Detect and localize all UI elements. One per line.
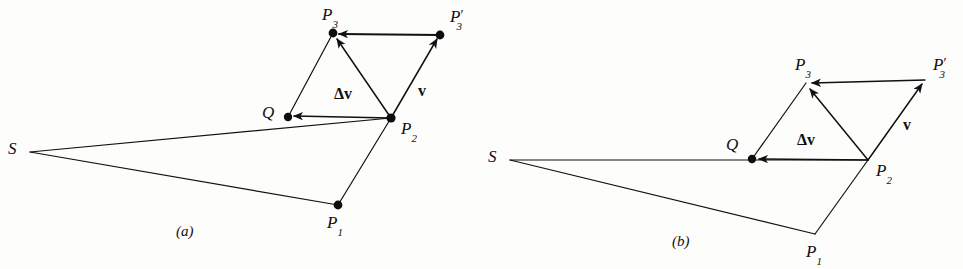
label-b-Q: Q (726, 136, 738, 153)
label-b-S: S (488, 148, 497, 165)
label-b-P3-subscript: 3 (805, 68, 811, 80)
caption-b: (b) (672, 234, 690, 249)
panel-b-lines (0, 0, 963, 269)
label-b-P2-subscript: 2 (886, 174, 892, 186)
edge-b-P2-to-Q (759, 159, 868, 160)
label-b-P3-prime: P′3 (933, 56, 945, 76)
edge-b-P3prime-to-P3 (812, 80, 925, 83)
label-b-P1-subscript: 1 (816, 255, 822, 267)
label-b-delta-v: Δv (797, 132, 815, 148)
figure-root: S P1 P2 P3 P′3 Q Δv v (a) (0, 0, 963, 269)
edge-b-P2-to-P3 (810, 89, 868, 160)
label-b-v: v (903, 117, 911, 133)
edge-b-P2-to-P3prime (868, 84, 922, 160)
edge-b-P1-to-P2 (815, 160, 868, 234)
label-b-P3-prime-subscript: 3 (939, 68, 945, 80)
label-b-P1: P1 (806, 243, 822, 263)
vertex-b-Q (748, 155, 756, 163)
edge-b-S-to-P1 (510, 160, 815, 234)
label-b-P3: P3 (795, 56, 811, 76)
label-b-P2: P2 (876, 162, 892, 182)
